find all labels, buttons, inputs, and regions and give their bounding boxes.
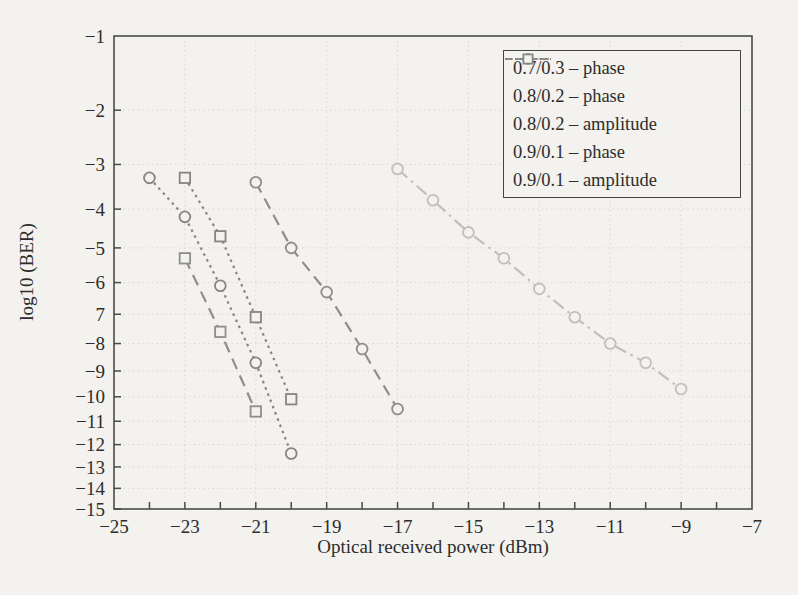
x-tick-labels: −25−23−21−19−17−15−13−11−9−7 [99, 516, 762, 537]
y-axis-title: log10 (BER) [16, 223, 38, 321]
series-line [185, 178, 291, 399]
data-point-square-marker [251, 312, 261, 322]
series-0-8-0-2-amplitude [180, 253, 261, 417]
y-tick-label: −4 [85, 199, 106, 220]
data-point-circle-marker [392, 164, 403, 175]
data-point-circle-marker [569, 312, 580, 323]
data-point-circle-marker [392, 404, 403, 415]
legend-label: 0.8/0.2 – amplitude [513, 114, 657, 135]
y-tick-label: −8 [85, 333, 105, 354]
x-tick-label: −9 [671, 516, 691, 537]
y-tick-label: 7 [96, 304, 106, 325]
y-tick-label: −2 [85, 100, 105, 121]
data-point-circle-marker [463, 227, 474, 238]
ber-figure: −1−2−3−4−5−67−8−9−10−11−12−13−14−15−25−2… [0, 0, 798, 595]
series-0-8-0-2-phase [250, 177, 403, 415]
y-tick-label: −13 [75, 457, 105, 478]
x-tick-label: −21 [241, 516, 271, 537]
y-tick-label: −6 [85, 272, 105, 293]
x-tick-label: −25 [99, 516, 129, 537]
data-point-circle-marker [286, 242, 297, 253]
x-tick-label: −23 [170, 516, 200, 537]
data-point-square-marker [180, 173, 190, 183]
data-point-square-marker [215, 327, 225, 337]
y-tick-label: −3 [85, 154, 105, 175]
data-point-circle-marker [321, 287, 332, 298]
x-tick-label: −17 [383, 516, 413, 537]
x-tick-label: −7 [742, 516, 762, 537]
legend-label: 0.9/0.1 – phase [513, 142, 625, 163]
data-point-circle-marker [676, 384, 687, 395]
legend-item: 0.8/0.2 – phase [513, 82, 740, 110]
x-tick-label: −19 [312, 516, 342, 537]
data-point-square-marker [215, 231, 225, 241]
x-tick-label: −11 [596, 516, 625, 537]
data-point-circle-marker [144, 172, 155, 183]
y-tick-label: −1 [85, 26, 105, 47]
y-tick-label: −12 [75, 434, 105, 455]
series-0-7-0-3-phase [392, 164, 686, 395]
legend-sample-line-square [504, 51, 552, 67]
data-point-circle-marker [250, 357, 261, 368]
data-point-circle-marker [640, 357, 651, 368]
legend-label: 0.9/0.1 – amplitude [513, 170, 657, 191]
data-point-circle-marker [250, 177, 261, 188]
legend-item: 0.9/0.1 – amplitude [513, 166, 740, 194]
data-point-square-marker [180, 253, 190, 263]
y-tick-label: −5 [85, 238, 105, 259]
y-tick-label: −10 [75, 386, 105, 407]
data-point-circle-marker [286, 448, 297, 459]
data-point-circle-marker [215, 280, 226, 291]
data-point-square-marker [251, 406, 261, 416]
data-point-circle-marker [357, 344, 368, 355]
data-point-square-marker [286, 394, 296, 404]
legend-box: 0.7/0.3 – phase 0.8/0.2 – phase 0.8/0.2 … [503, 50, 741, 198]
legend-label: 0.8/0.2 – phase [513, 86, 625, 107]
y-tick-label: −9 [85, 361, 105, 382]
x-tick-label: −15 [454, 516, 484, 537]
legend-square-marker [524, 55, 533, 64]
legend-item: 0.8/0.2 – amplitude [513, 110, 740, 138]
legend-item: 0.9/0.1 – phase [513, 138, 740, 166]
y-tick-label: −11 [76, 411, 105, 432]
data-point-circle-marker [179, 211, 190, 222]
y-tick-label: −14 [75, 478, 105, 499]
y-tick-labels: −1−2−3−4−5−67−8−9−10−11−12−13−14−15 [75, 26, 105, 520]
series-0-9-0-1-amplitude [180, 173, 297, 405]
x-tick-label: −13 [524, 516, 554, 537]
data-point-circle-marker [428, 195, 439, 206]
x-axis-title: Optical received power (dBm) [317, 536, 549, 558]
data-point-circle-marker [534, 284, 545, 295]
series-line [149, 178, 291, 454]
data-point-circle-marker [605, 338, 616, 349]
data-point-circle-marker [498, 253, 509, 264]
